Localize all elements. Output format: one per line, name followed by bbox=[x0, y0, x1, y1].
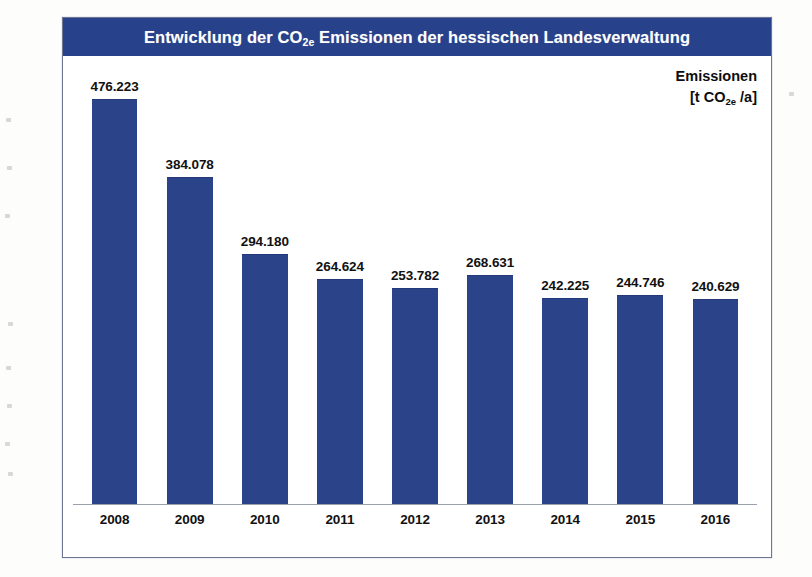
bar-value-label: 476.223 bbox=[91, 79, 139, 94]
bar bbox=[542, 298, 588, 504]
bar-value-label: 384.078 bbox=[166, 157, 214, 172]
x-axis-tick-label: 2013 bbox=[453, 512, 528, 527]
x-axis-tick-label: 2014 bbox=[528, 512, 603, 527]
bar bbox=[392, 288, 438, 504]
bar-group: 268.631 bbox=[453, 56, 528, 504]
chart-frame: Entwicklung der CO2e Emissionen der hess… bbox=[62, 17, 772, 558]
x-axis-tick-label: 2008 bbox=[77, 512, 152, 527]
bar bbox=[242, 254, 288, 504]
bar-group: 384.078 bbox=[152, 56, 227, 504]
bar bbox=[92, 99, 138, 504]
bar-group: 244.746 bbox=[603, 56, 678, 504]
x-axis-category-labels: 200820092010201120122013201420152016 bbox=[77, 512, 753, 527]
chart-title-suffix: Emissionen der hessischen Landesverwaltu… bbox=[314, 28, 690, 46]
x-axis-tick-label: 2012 bbox=[377, 512, 452, 527]
bar-value-label: 268.631 bbox=[466, 255, 514, 270]
bar-value-label: 240.629 bbox=[691, 279, 739, 294]
x-axis-tick-label: 2010 bbox=[227, 512, 302, 527]
x-axis-tick-label: 2015 bbox=[603, 512, 678, 527]
chart-title-band: Entwicklung der CO2e Emissionen der hess… bbox=[63, 18, 771, 56]
left-margin-scan-artifacts bbox=[0, 0, 26, 577]
bar-group: 240.629 bbox=[678, 56, 753, 504]
bar bbox=[317, 279, 363, 504]
x-axis-line bbox=[73, 504, 757, 505]
bar-group: 242.225 bbox=[528, 56, 603, 504]
bar-value-label: 244.746 bbox=[616, 275, 664, 290]
bar bbox=[467, 275, 513, 504]
chart-title-prefix: Entwicklung der CO bbox=[144, 28, 303, 46]
scanned-page: Entwicklung der CO2e Emissionen der hess… bbox=[0, 0, 812, 577]
bar bbox=[617, 295, 663, 504]
chart-title: Entwicklung der CO2e Emissionen der hess… bbox=[144, 28, 690, 47]
x-axis-tick-label: 2009 bbox=[152, 512, 227, 527]
bar-group: 253.782 bbox=[377, 56, 452, 504]
bar-group: 264.624 bbox=[302, 56, 377, 504]
x-axis-tick-label: 2016 bbox=[678, 512, 753, 527]
bar bbox=[167, 177, 213, 504]
x-axis-tick-label: 2011 bbox=[302, 512, 377, 527]
plot-area: 476.223384.078294.180264.624253.782268.6… bbox=[63, 56, 771, 557]
bar-value-label: 264.624 bbox=[316, 259, 364, 274]
bar bbox=[693, 299, 739, 504]
chart-title-subscript: 2e bbox=[303, 36, 315, 48]
right-margin-scan-artifacts bbox=[786, 0, 812, 577]
bar-value-label: 294.180 bbox=[241, 234, 289, 249]
bar-series: 476.223384.078294.180264.624253.782268.6… bbox=[77, 56, 753, 504]
bar-value-label: 242.225 bbox=[541, 278, 589, 293]
bar-group: 294.180 bbox=[227, 56, 302, 504]
bar-group: 476.223 bbox=[77, 56, 152, 504]
bar-value-label: 253.782 bbox=[391, 268, 439, 283]
